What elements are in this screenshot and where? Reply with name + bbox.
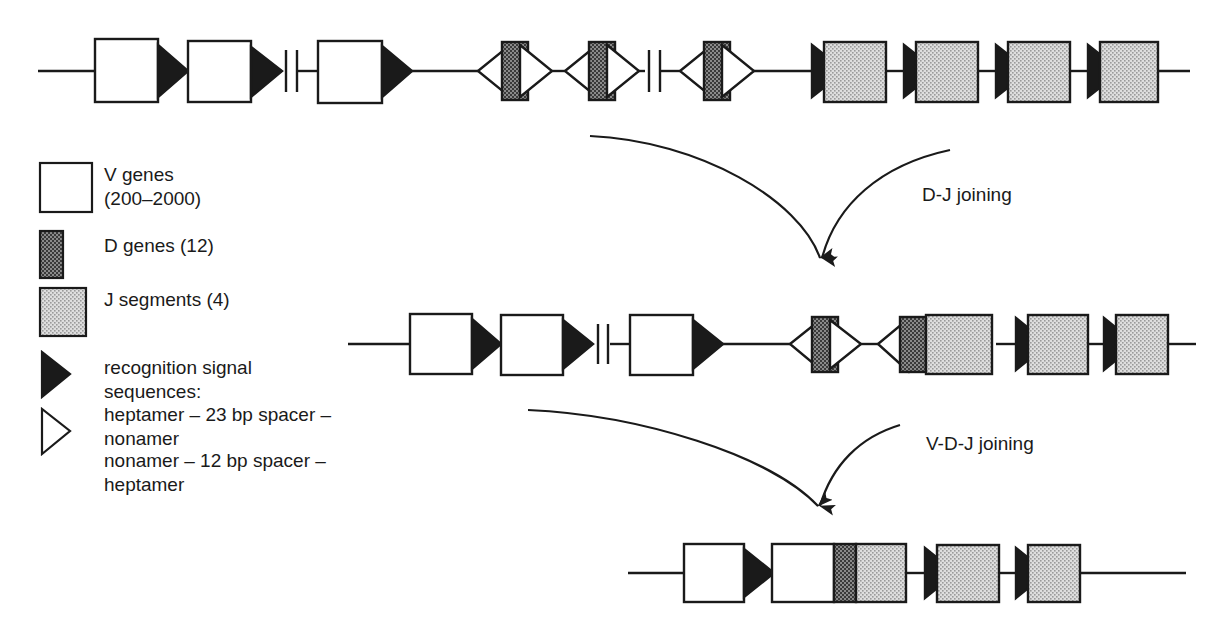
v-gene-box — [772, 544, 834, 602]
arrow-vdj-joining — [528, 410, 900, 506]
row-germline-dna — [38, 39, 1190, 103]
arrow-curve-left — [528, 410, 818, 506]
v-gene-box — [318, 41, 382, 103]
legend-swatch-black-triangle — [42, 352, 70, 397]
rss-white-triangle — [830, 320, 861, 369]
rss-black-triangle — [744, 549, 774, 597]
v-gene-box — [410, 314, 472, 374]
rss-black-triangle — [693, 320, 723, 369]
j-segment-box — [1008, 42, 1070, 102]
legend-label-rss-white: nonamer – 12 bp spacer – heptamer — [104, 449, 326, 496]
legend-label-d-genes: D genes (12) — [104, 234, 214, 258]
dna-break-mark — [286, 50, 297, 92]
arrow-curve-right — [820, 425, 900, 506]
vdj-recombination-figure — [0, 0, 1216, 637]
v-gene-box — [630, 315, 693, 375]
arrow-dj-joining — [590, 136, 950, 258]
legend-label-rss-black: recognition signal sequences: heptamer –… — [104, 356, 331, 450]
j-segment-box — [926, 315, 992, 374]
rss-black-triangle — [472, 319, 501, 369]
dj-fused-unit — [878, 315, 992, 374]
d-gene-box — [834, 544, 856, 602]
j-segment-box — [1116, 315, 1168, 374]
legend-label-v-genes: V genes (200–2000) — [104, 163, 201, 210]
row-dj-joined-dna — [348, 314, 1196, 375]
legend-swatch-white-triangle — [42, 409, 70, 454]
dna-break-mark — [649, 50, 660, 92]
rss-black-triangle — [382, 46, 412, 97]
j-segment-box — [1028, 545, 1080, 602]
vdj-fused-unit — [772, 544, 906, 602]
v-gene-box — [188, 41, 251, 102]
legend-swatch-d-genes — [40, 231, 63, 278]
step-label-vdj-joining: V-D-J joining — [926, 432, 1034, 455]
v-gene-box — [95, 39, 158, 102]
j-segment-box — [1100, 42, 1158, 102]
step-label-dj-joining: D-J joining — [922, 183, 1012, 206]
j-segment-box — [937, 545, 999, 602]
v-gene-box — [684, 544, 744, 602]
legend-swatch-j-segments — [40, 288, 86, 336]
j-segment-box — [856, 544, 906, 602]
rss-white-triangle — [722, 45, 754, 97]
arrow-curve-left — [590, 136, 820, 258]
rss-black-triangle — [563, 320, 593, 369]
legend-swatch-v-genes — [40, 163, 92, 212]
legend-label-j-segments: J segments (4) — [104, 288, 230, 312]
diagram-canvas: V genes (200–2000) D genes (12) J segmen… — [0, 0, 1216, 637]
rss-black-triangle — [251, 47, 282, 97]
j-segment-box — [824, 42, 886, 102]
rss-white-triangle — [607, 45, 639, 97]
j-segment-box — [1028, 315, 1088, 374]
d-gene-box — [900, 317, 926, 372]
dna-break-mark — [598, 324, 608, 364]
v-gene-box — [501, 315, 563, 375]
rss-white-triangle — [520, 45, 552, 97]
row-vdj-joined-dna — [628, 544, 1186, 602]
rss-black-triangle — [158, 45, 188, 97]
legend-swatches — [40, 163, 92, 454]
j-segment-box — [916, 42, 978, 102]
